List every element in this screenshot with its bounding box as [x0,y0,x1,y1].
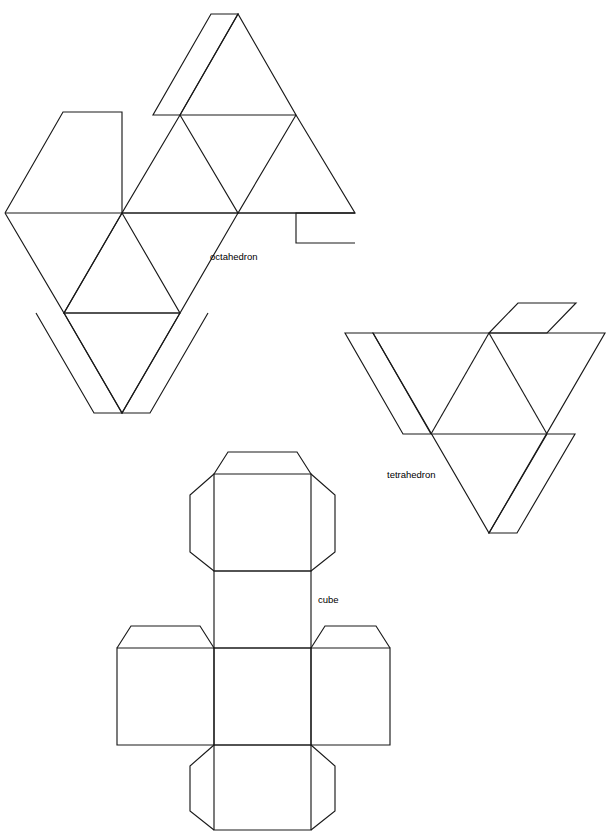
tetrahedron-outline [373,333,605,533]
octahedron-tab-bottom-right [122,313,208,413]
tetrahedron-net: tetrahedron [345,303,605,533]
tetrahedron-tabs [345,303,576,533]
cube-tab-upper-right [311,474,335,571]
octahedron-face-1 [180,14,296,115]
octahedron-tab-right [296,213,355,243]
octahedron-faces [5,14,355,413]
octahedron-face-7 [64,213,180,313]
cube-tabs [117,452,390,830]
octahedron-tab-top-left [153,14,238,115]
octahedron-face-4 [238,115,355,213]
octahedron-face-6 [122,213,238,313]
octahedron-face-2 [180,115,296,213]
octahedron-net: octahedron [5,14,355,413]
cube-face-bottom [214,745,311,830]
cube-face-center [214,648,311,745]
cube-face-upper-middle [214,571,311,648]
cube-tab-top [214,452,311,474]
cube-tab-upper-left [190,474,214,571]
octahedron-face-3 [122,115,238,213]
tetrahedron-tab-top [489,303,576,333]
tetrahedron-faces [373,333,605,533]
tetrahedron-fold-right [489,333,547,434]
tetrahedron-tab-right [489,434,575,533]
cube-tab-right-top [311,626,390,648]
tetrahedron-tab-left [345,333,431,434]
polyhedra-nets-canvas: octahedron tetrahedron [0,0,610,839]
cube-tab-lower-right [311,745,335,830]
cube-tab-left-top [117,626,214,648]
octahedron-label: octahedron [210,251,258,262]
octahedron-face-8 [64,313,180,413]
cube-faces [117,474,390,830]
worksheet-page: octahedron tetrahedron [0,0,610,839]
cube-face-right [311,648,390,745]
cube-label: cube [318,594,339,605]
octahedron-face-5 [5,213,122,313]
cube-tab-lower-left [190,745,214,830]
octahedron-tab-bottom-left [36,313,122,413]
octahedron-tab-left [5,112,122,213]
tetrahedron-fold-left [431,333,489,434]
tetrahedron-label: tetrahedron [387,469,436,480]
cube-face-top [214,474,311,571]
cube-face-left [117,648,214,745]
cube-net: cube [117,452,390,830]
